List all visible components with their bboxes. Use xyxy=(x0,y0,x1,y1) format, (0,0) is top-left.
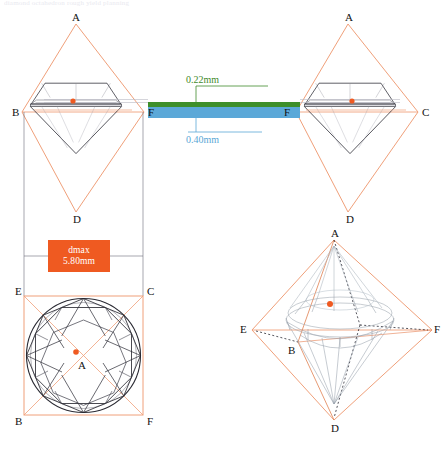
label-tl-A: A xyxy=(72,12,80,23)
label-tr-D: D xyxy=(346,214,354,225)
label-tl-F: F xyxy=(148,107,154,118)
label-tr-A: A xyxy=(345,12,353,23)
label-iso-F: F xyxy=(434,324,440,335)
label-iso-E: E xyxy=(240,324,247,335)
label-iso-A: A xyxy=(331,228,339,239)
figure-canvas: diamond octahedron rough yield planning xyxy=(0,0,446,450)
view-front-right xyxy=(296,24,418,212)
label-plan-C: C xyxy=(147,286,154,297)
dmax-value: 5.80mm xyxy=(63,256,95,267)
label-plan-E: E xyxy=(15,286,22,297)
label-plan-B: B xyxy=(15,416,22,427)
dmax-title: dmax xyxy=(68,245,90,256)
green-dimension-label: 0.22mm xyxy=(186,74,219,85)
blue-seam-bar xyxy=(148,107,300,118)
label-tl-D: D xyxy=(73,214,81,225)
blue-dimension-label: 0.40mm xyxy=(186,134,219,145)
label-tr-C: C xyxy=(422,107,429,118)
label-iso-B: B xyxy=(288,345,295,356)
view-plan-round-brilliant xyxy=(24,296,143,415)
diagram-vector-layer xyxy=(0,0,446,450)
label-plan-center-A: A xyxy=(78,360,86,371)
label-tr-F: F xyxy=(284,107,290,118)
view-isometric-octahedron xyxy=(252,240,432,420)
label-plan-F: F xyxy=(147,416,153,427)
label-iso-D: D xyxy=(331,423,339,434)
dmax-badge: dmax 5.80mm xyxy=(48,240,110,272)
label-tl-B: B xyxy=(12,107,19,118)
